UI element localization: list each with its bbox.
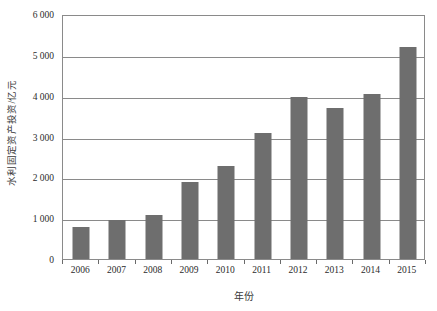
x-tick-label: 2015 <box>397 265 416 275</box>
x-tick-label: 2006 <box>71 265 90 275</box>
x-tick-label: 2013 <box>325 265 344 275</box>
bar-slot <box>245 16 281 259</box>
y-tick-label: 4 000 <box>33 92 54 102</box>
y-tick-label: 0 <box>49 255 54 265</box>
x-tick <box>135 260 136 264</box>
bar[interactable] <box>218 166 235 260</box>
x-tick <box>425 260 426 264</box>
bar[interactable] <box>182 182 199 259</box>
bar[interactable] <box>363 94 380 259</box>
bars-layer <box>63 16 424 259</box>
x-axis-tick-labels: 2006200720082009201020112012201320142015 <box>62 265 425 281</box>
bar-slot <box>390 16 426 259</box>
bar-slot <box>353 16 389 259</box>
x-tick <box>244 260 245 264</box>
x-tick-label: 2012 <box>288 265 307 275</box>
bar[interactable] <box>145 215 162 260</box>
y-axis-title-text: 水利固定资产投资/亿元 <box>4 80 18 186</box>
y-tick-label: 3 000 <box>33 133 54 143</box>
bar-slot <box>208 16 244 259</box>
x-tick <box>352 260 353 264</box>
bar-slot <box>281 16 317 259</box>
plot-area <box>62 15 425 260</box>
x-tick <box>207 260 208 264</box>
bar-chart: 水利固定资产投资/亿元 01 0002 0003 0004 0005 0006 … <box>0 0 437 311</box>
x-tick <box>62 260 63 264</box>
y-tick-label: 2 000 <box>33 173 54 183</box>
bar[interactable] <box>73 227 90 259</box>
x-tick <box>316 260 317 264</box>
x-tick <box>171 260 172 264</box>
bar[interactable] <box>290 97 307 259</box>
x-tick-label: 2009 <box>180 265 199 275</box>
bar-slot <box>99 16 135 259</box>
y-tick-label: 5 000 <box>33 51 54 61</box>
y-axis-tick-labels: 01 0002 0003 0004 0005 0006 000 <box>18 15 59 260</box>
bar[interactable] <box>327 108 344 259</box>
x-tick <box>389 260 390 264</box>
y-tick-label: 1 000 <box>33 214 54 224</box>
x-tick-label: 2011 <box>252 265 271 275</box>
y-tick-label: 6 000 <box>33 10 54 20</box>
bar-slot <box>172 16 208 259</box>
bar-slot <box>317 16 353 259</box>
bar[interactable] <box>254 133 271 259</box>
x-tick-label: 2010 <box>216 265 235 275</box>
x-tick <box>280 260 281 264</box>
x-tick <box>98 260 99 264</box>
bar[interactable] <box>399 47 416 259</box>
x-tick-label: 2007 <box>107 265 126 275</box>
x-tick-label: 2014 <box>361 265 380 275</box>
bar-slot <box>63 16 99 259</box>
bar[interactable] <box>109 220 126 259</box>
bar-slot <box>136 16 172 259</box>
x-tick-label: 2008 <box>143 265 162 275</box>
x-axis-title: 年份 <box>62 288 425 303</box>
